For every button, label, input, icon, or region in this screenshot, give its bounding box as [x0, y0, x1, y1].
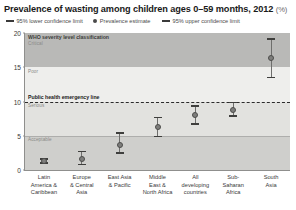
legend-label-lower-limit: 95% lower confidence limit [17, 18, 83, 24]
prevalence-estimate-marker [230, 107, 236, 113]
dot-icon [93, 19, 97, 23]
prevalence-estimate-marker [117, 142, 123, 148]
prevalence-estimate-marker [192, 112, 198, 118]
band-label-critical: Critical [28, 41, 43, 46]
x-axis-line [24, 170, 290, 171]
x-axis-labels: Latin America & CaribbeanEurope & Centra… [25, 174, 290, 208]
x-axis-category-label: South Asia [249, 174, 293, 189]
chart-legend: 95% lower confidence limit Prevalence es… [4, 17, 296, 26]
band-label-acceptable: Acceptable [28, 137, 52, 142]
legend-label-upper-limit: 95% upper confidence limit [173, 18, 240, 24]
chart-title-unit: (%) [276, 5, 288, 14]
upper-confidence-limit-cap [229, 102, 237, 104]
y-axis-tick-label: 0 [17, 167, 21, 174]
upper-confidence-limit-cap [267, 38, 275, 40]
legend-item-upper-limit: 95% upper confidence limit [162, 17, 240, 26]
lower-confidence-limit-cap [267, 77, 275, 79]
upper-confidence-limit-cap [191, 105, 199, 107]
upper-confidence-limit-cap [154, 117, 162, 119]
upper-confidence-limit-cap [78, 151, 86, 153]
legend-label-estimate: Prevalence estimate [100, 18, 151, 24]
public-health-emergency-line [25, 102, 290, 103]
y-axis-tick-label: 5 [17, 132, 21, 139]
upper-confidence-limit-cap [116, 132, 124, 134]
lower-confidence-limit-cap [116, 152, 124, 154]
chart-title-text: Prevalence of wasting among children age… [4, 4, 273, 14]
prevalence-estimate-marker [79, 156, 85, 162]
lower-confidence-limit-cap [154, 136, 162, 138]
prevalence-estimate-marker [41, 158, 47, 164]
band-label-serious: Serious [28, 103, 44, 108]
public-health-emergency-label: Public health emergency line [28, 94, 100, 100]
plot-area: WHO severity level classification Critic… [25, 33, 290, 170]
dash-icon [162, 20, 170, 22]
lower-confidence-limit-cap [78, 164, 86, 166]
prevalence-estimate-marker [268, 55, 274, 61]
prevalence-estimate-marker [155, 124, 161, 130]
y-axis-tick-label: 10 [14, 98, 21, 105]
legend-item-estimate: Prevalence estimate [93, 17, 150, 26]
who-classification-label: WHO severity level classification [28, 34, 109, 40]
y-axis-tick-label: 15 [14, 64, 21, 71]
dash-icon [6, 20, 14, 22]
y-axis-tick-label: 20 [14, 30, 21, 37]
chart-title: Prevalence of wasting among children age… [4, 4, 294, 14]
legend-item-lower-limit: 95% lower confidence limit [6, 17, 83, 26]
lower-confidence-limit-cap [229, 115, 237, 117]
lower-confidence-limit-cap [191, 123, 199, 125]
band-label-poor: Poor [28, 69, 38, 74]
wasting-prevalence-chart: Prevalence of wasting among children age… [0, 0, 296, 210]
y-axis: 05101520 [0, 33, 25, 170]
band-acceptable [25, 136, 290, 170]
